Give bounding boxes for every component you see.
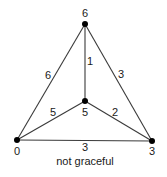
edge-label-top-center: 1 bbox=[87, 55, 93, 67]
vertex-center bbox=[82, 98, 88, 104]
vertex-label-top: 6 bbox=[82, 7, 88, 19]
vertex-bottom-right bbox=[149, 138, 155, 144]
edge-label-top-bottom-left: 6 bbox=[45, 69, 51, 81]
edge-label-center-bottom-right: 2 bbox=[112, 106, 118, 118]
edge-label-top-bottom-right: 3 bbox=[118, 68, 124, 80]
graph-diagram: 6 5 0 3 1 6 3 5 2 3 not graceful bbox=[0, 0, 167, 177]
vertex-top bbox=[82, 21, 88, 27]
edge-center-bottom-right bbox=[85, 101, 152, 141]
vertex-label-bottom-right: 3 bbox=[149, 145, 155, 157]
vertex-bottom-left bbox=[14, 137, 20, 143]
vertex-label-bottom-left: 0 bbox=[14, 145, 20, 157]
edge-label-center-bottom-left: 5 bbox=[50, 106, 56, 118]
caption: not graceful bbox=[56, 155, 113, 167]
edge-label-bottom-left-bottom-right: 3 bbox=[82, 141, 88, 153]
edge-top-bottom-left bbox=[17, 24, 85, 140]
vertex-label-center: 5 bbox=[82, 106, 88, 118]
edge-top-bottom-right bbox=[85, 24, 152, 141]
